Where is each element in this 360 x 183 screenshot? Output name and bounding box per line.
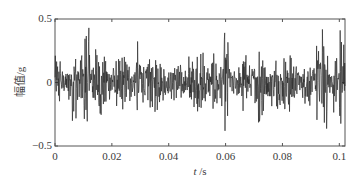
- x-tick-label: 0.1: [332, 150, 346, 162]
- y-tick-label: 0: [47, 76, 53, 88]
- x-tick-label: 0.04: [159, 150, 178, 162]
- x-tick-label: 0.02: [102, 150, 121, 162]
- signal-line: [55, 28, 345, 131]
- x-tick-label: 0.08: [273, 150, 292, 162]
- x-axis-variable: t: [193, 165, 196, 177]
- x-tick-label: 0.06: [216, 150, 235, 162]
- x-axis-unit: /s: [199, 165, 206, 177]
- x-tick-label: 0: [52, 150, 58, 162]
- y-axis-label: 幅值/g: [11, 67, 27, 98]
- x-axis-label: t /s: [193, 165, 206, 177]
- y-tick-label: −0.5: [32, 139, 52, 151]
- y-tick-label: 0.5: [38, 12, 52, 24]
